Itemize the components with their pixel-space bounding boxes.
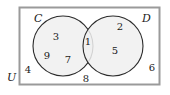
region-value-outside-right: 6	[149, 63, 155, 73]
region-value-left-only-lower: 9	[44, 51, 50, 61]
region-value-intersection: 1	[85, 37, 91, 47]
region-value-outside-left: 4	[25, 65, 31, 75]
region-value-outside-bottom: 8	[83, 74, 89, 84]
region-value-left-only-right: 7	[65, 55, 71, 65]
region-value-left-only-top: 3	[53, 32, 59, 42]
universal-set-label: U	[7, 72, 16, 83]
set-label-c: C	[34, 13, 42, 24]
region-value-right-only-top: 2	[117, 22, 123, 32]
region-value-right-only-mid: 5	[112, 46, 118, 56]
set-label-d: D	[142, 13, 151, 24]
venn-diagram: C D U 3 9 7 1 2 5 4 6 8	[0, 0, 170, 95]
